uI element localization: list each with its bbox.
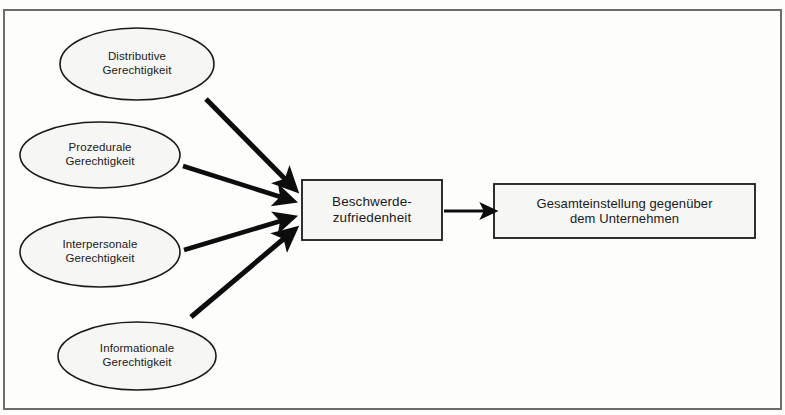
node-beschwerdezufriedenheit[interactable] [302,180,442,240]
arrow-informationale-to-beschwerde [191,236,287,317]
node-interpersonale[interactable] [20,217,180,287]
arrow-distributive-to-beschwerde [206,99,288,182]
node-gesamteinstellung[interactable] [494,184,755,238]
arrow-prozedurale-to-beschwerde [183,166,284,198]
node-informationale[interactable] [58,322,216,390]
node-distributive[interactable] [60,28,214,100]
arrow-interpersonale-to-beschwerde [184,220,284,250]
diagram-canvas [0,0,785,415]
node-prozedurale[interactable] [20,122,180,188]
diagram-page: Distributive Gerechtigkeit Prozedurale G… [0,0,785,415]
